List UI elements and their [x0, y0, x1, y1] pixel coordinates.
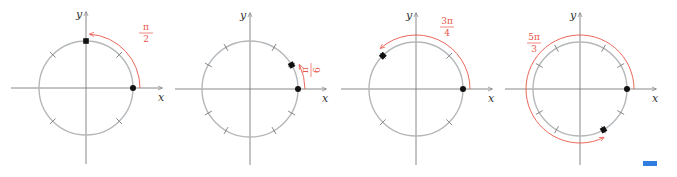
x-axis-label: x [652, 92, 659, 105]
y-axis-label: y [75, 8, 83, 21]
terminal-point [288, 61, 296, 69]
angle-denominator: 2 [143, 34, 149, 44]
x-axis-label: x [158, 91, 165, 104]
angle-denominator: 3 [531, 44, 537, 54]
diagram-angle-3pi-over-4: xy3π4 [341, 9, 495, 165]
angle-label: 3π4 [440, 16, 454, 38]
angle-label: π2 [139, 22, 153, 44]
y-axis-label: y [569, 9, 577, 22]
angle-numerator: π [143, 22, 149, 32]
start-point [130, 85, 136, 91]
start-point [295, 86, 301, 92]
angle-denominator: 6 [312, 67, 322, 73]
start-point [460, 86, 466, 92]
terminal-point [83, 38, 89, 44]
diagram-angle-5pi-over-3: xy5π3 [505, 9, 659, 165]
blue-marker [643, 161, 657, 166]
y-axis-label: y [239, 9, 247, 22]
angle-label: 5π3 [527, 32, 541, 54]
unit-circle-diagrams: xyπ2xyπ6xy3π4xy5π3 [0, 0, 677, 177]
angle-numerator: 3π [441, 16, 453, 26]
diagram-angle-pi-over-6: xyπ6 [175, 9, 329, 165]
x-axis-label: x [488, 92, 495, 105]
start-point [624, 86, 630, 92]
angle-denominator: 4 [444, 28, 450, 38]
terminal-point [600, 126, 608, 134]
y-axis-label: y [405, 9, 413, 22]
x-axis-label: x [322, 92, 329, 105]
diagram-angle-pi-over-2: xyπ2 [11, 8, 165, 164]
angle-numerator: 5π [528, 32, 540, 42]
angle-numerator: π [300, 67, 310, 73]
